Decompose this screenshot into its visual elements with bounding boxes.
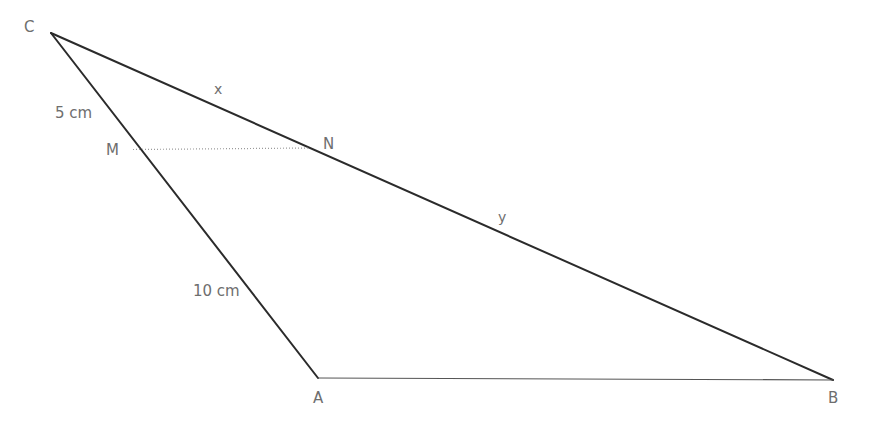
segment-label-x: x	[214, 82, 222, 96]
length-label-cm: 5 cm	[55, 106, 92, 121]
vertex-label-n: N	[323, 137, 334, 152]
vertex-label-a: A	[313, 391, 323, 406]
length-label-ma: 10 cm	[193, 284, 240, 299]
geometry-canvas	[0, 0, 870, 421]
segment-label-y: y	[498, 210, 506, 224]
segment-mn-dotted	[133, 148, 310, 150]
vertex-label-c: C	[24, 20, 34, 35]
geometry-diagram: C A B M N 5 cm 10 cm x y	[0, 0, 870, 421]
segment-ab	[318, 378, 833, 380]
segment-ca	[51, 33, 318, 378]
segment-cb	[51, 33, 833, 380]
vertex-label-b: B	[828, 391, 838, 406]
vertex-label-m: M	[106, 143, 119, 158]
